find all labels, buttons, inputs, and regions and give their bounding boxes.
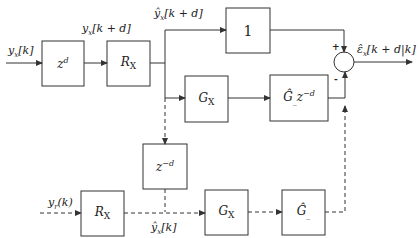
block-rx-bottom: RX bbox=[81, 191, 124, 236]
signal-output: ε̂x[k + d|k] bbox=[357, 44, 416, 58]
block-gx-top: GX bbox=[185, 76, 228, 122]
signal-after-delay: yx[k + d] bbox=[82, 23, 131, 37]
block-label: zd bbox=[57, 56, 68, 71]
signal-input: yx[k] bbox=[8, 45, 33, 59]
block-z-d: zd bbox=[42, 41, 84, 86]
block-unity: 1 bbox=[226, 8, 270, 53]
block-diagram: zd RX 1 GX Ĝ_z−d z−d RX GX Ĝ_ yx[k] yx[k… bbox=[0, 0, 418, 238]
signal-reference: yr(k) bbox=[48, 197, 73, 211]
signal-bottom-mid: ŷx[k] bbox=[151, 222, 176, 236]
sum-plus-sign: + bbox=[332, 43, 340, 52]
block-z-minus-d: z−d bbox=[143, 144, 187, 189]
signal-after-rx: ŷx[k + d] bbox=[154, 8, 203, 22]
block-ghat-delay: Ĝ_z−d bbox=[270, 75, 328, 121]
block-gx-bottom: GX bbox=[205, 190, 248, 235]
block-ghat-bottom: Ĝ_ bbox=[282, 190, 325, 235]
block-rx-top: RX bbox=[107, 41, 150, 86]
sum-minus-sign: - bbox=[334, 75, 338, 84]
